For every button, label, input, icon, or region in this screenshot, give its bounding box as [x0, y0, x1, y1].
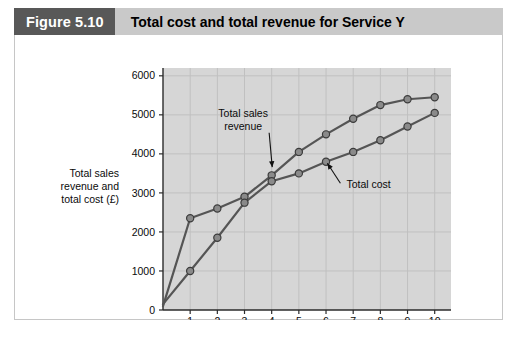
data-point-marker	[214, 205, 221, 212]
x-axis-tick-label: 3	[242, 315, 248, 320]
data-point-marker	[187, 215, 194, 222]
data-point-marker	[295, 148, 302, 155]
data-point-marker	[187, 267, 194, 274]
y-axis-tick-label: 4000	[132, 147, 156, 159]
figure-container: Figure 5.10 Total cost and total revenue…	[14, 8, 503, 320]
data-point-marker	[404, 96, 411, 103]
figure-caption-text	[17, 333, 497, 343]
data-point-marker	[295, 170, 302, 177]
figure-number-badge: Figure 5.10	[14, 8, 115, 35]
y-axis-tick-label: 2000	[132, 226, 156, 238]
x-axis-tick-label: 10	[429, 315, 441, 320]
annotation-total-cost: Total cost	[346, 178, 390, 190]
data-point-marker	[214, 234, 221, 241]
x-axis-tick-label: 4	[269, 315, 275, 320]
annotation-total-sales-revenue: revenue	[224, 120, 262, 132]
data-point-marker	[322, 131, 329, 138]
data-point-marker	[431, 94, 438, 101]
data-point-marker	[431, 109, 438, 116]
data-point-marker	[241, 199, 248, 206]
x-axis-tick-label: 8	[377, 315, 383, 320]
y-axis-tick-label: 1000	[132, 265, 156, 277]
data-point-marker	[268, 178, 275, 185]
y-axis-title-line: total cost (£)	[61, 193, 119, 205]
x-axis-tick-label: 2	[214, 315, 220, 320]
annotation-total-sales-revenue: Total sales	[218, 107, 268, 119]
y-axis-tick-label: 6000	[132, 69, 156, 81]
x-axis-tick-label: 7	[350, 315, 356, 320]
x-axis-tick-label: 1	[187, 315, 193, 320]
data-point-marker	[404, 123, 411, 130]
x-axis-tick-label: 6	[323, 315, 329, 320]
y-axis-title-line: Total sales	[69, 167, 119, 179]
line-chart: 010002000300040005000600012345678910Unit…	[15, 35, 504, 320]
y-axis-tick-label: 3000	[132, 187, 156, 199]
y-axis-tick-label: 5000	[132, 108, 156, 120]
data-point-marker	[377, 101, 384, 108]
figure-header: Figure 5.10 Total cost and total revenue…	[14, 8, 503, 35]
chart-svg: 010002000300040005000600012345678910Unit…	[15, 35, 504, 320]
data-point-marker	[377, 137, 384, 144]
y-axis-tick-label: 0	[149, 304, 155, 316]
figure-title: Total cost and total revenue for Service…	[115, 8, 405, 35]
data-point-marker	[350, 148, 357, 155]
x-axis-tick-label: 9	[405, 315, 411, 320]
figure-body-panel: 010002000300040005000600012345678910Unit…	[14, 35, 503, 320]
x-axis-tick-label: 5	[296, 315, 302, 320]
data-point-marker	[350, 115, 357, 122]
y-axis-title-line: revenue and	[61, 180, 120, 192]
